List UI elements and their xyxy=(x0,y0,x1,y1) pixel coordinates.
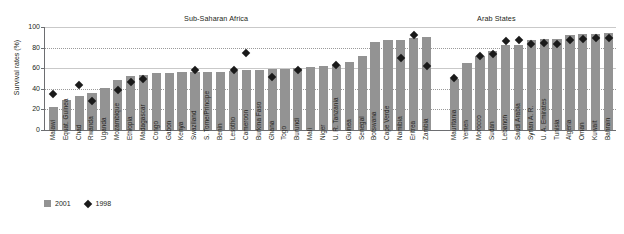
bar-mali xyxy=(306,67,315,130)
x-tick-label-uganda: Uganda xyxy=(100,117,107,140)
group-title-arab-states: Arab States xyxy=(477,14,516,23)
legend-item-1998: 1998 xyxy=(84,200,112,207)
x-tick-label-guinea: Guinea xyxy=(345,119,352,140)
diamond-saudi-arabia xyxy=(514,36,522,44)
x-tick-label-saudi-arabia: Saudi Arabia xyxy=(514,103,521,140)
legend-label-2001: 2001 xyxy=(55,200,71,207)
x-tick-label-namibia: Namibia xyxy=(396,116,403,140)
y-tick-label-40: 40 xyxy=(16,85,40,92)
x-tick-label-togo: Togo xyxy=(280,126,287,140)
x-tick-label-sudan: Sudan xyxy=(488,121,495,140)
x-tick-label-benin: Benin xyxy=(216,123,223,140)
x-tick-label-eritrea: Eritrea xyxy=(409,121,416,140)
diamond-malawi xyxy=(49,90,57,98)
group-title-sub-saharan-africa: Sub-Saharan Africa xyxy=(184,14,248,23)
bar-zambia xyxy=(422,37,431,130)
bar-algeria xyxy=(565,35,574,130)
bar-togo xyxy=(280,69,289,130)
x-tick-label-burundi: Burundi xyxy=(293,118,300,140)
x-tick-label-cape-verde: Cape Verde xyxy=(383,106,390,140)
legend-label-1998: 1998 xyxy=(96,200,112,207)
x-tick-label-ethiopia: Ethiopia xyxy=(126,117,133,141)
x-tick-label-lebanon: Lebanon xyxy=(501,115,508,140)
x-tick-label-tunisia: Tunisia xyxy=(553,119,560,140)
x-tick-label-oman: Oman xyxy=(578,122,585,140)
bar-kuwait xyxy=(591,34,600,130)
y-tick-label-60: 60 xyxy=(16,64,40,71)
x-tick-label-mauritania: Mauritania xyxy=(450,110,457,140)
x-tick-label-morocco: Morocco xyxy=(475,115,482,140)
x-tick-label-rwanda: Rwanda xyxy=(87,116,94,140)
x-tick-label-niger: Niger xyxy=(319,124,326,140)
x-tick-label-mozambique: Mozambique xyxy=(113,103,120,140)
legend: 2001 1998 xyxy=(44,200,111,207)
x-tick-label-cameroon: Cameroon xyxy=(242,110,249,140)
x-tick-label-burkina-faso: Burkina Faso xyxy=(255,102,262,140)
legend-diamond-swatch-icon xyxy=(83,199,91,207)
x-tick-label-syrian-a-r: Syrian A. R. xyxy=(527,106,534,140)
x-tick-label-madagascar: Madagascar xyxy=(139,104,146,140)
legend-bar-swatch-icon xyxy=(44,200,51,207)
x-tick-label-malawi: Malawi xyxy=(49,120,56,140)
bar-oman xyxy=(578,34,587,130)
legend-item-2001: 2001 xyxy=(44,200,71,207)
x-tick-label-equat-guinea: Equat. Guinea xyxy=(62,98,69,140)
x-tick-label-zambia: Zambia xyxy=(422,118,429,140)
y-tick-label-100: 100 xyxy=(16,23,40,30)
x-tick-label-gabon: Gabon xyxy=(165,121,172,140)
x-tick-label-u-a-emirates: U. A. Emirates xyxy=(540,98,547,140)
diamond-cameroon xyxy=(242,48,250,56)
y-tick-label-80: 80 xyxy=(16,44,40,51)
bar-eritrea xyxy=(409,38,418,130)
x-tick-label-mali: Mali xyxy=(306,128,313,140)
y-tick-label-20: 20 xyxy=(16,105,40,112)
x-tick-label-yemen: Yemen xyxy=(462,120,469,140)
x-tick-label-ghana: Ghana xyxy=(268,121,275,140)
bar-bahrain xyxy=(604,33,613,130)
x-tick-label-senegal: Senegal xyxy=(358,116,365,140)
bar-sudan xyxy=(488,51,497,130)
x-tick-label-botswana: Botswana xyxy=(370,112,377,140)
y-tick-label-0: 0 xyxy=(16,126,40,133)
bar-tunisia xyxy=(552,39,561,130)
x-tick-label-lesotho: Lesotho xyxy=(229,117,236,140)
bar-niger xyxy=(319,66,328,130)
x-tick-label-kenya: Kenya xyxy=(177,122,184,140)
x-tick-label-kuwait: Kuwait xyxy=(591,121,598,140)
bar-benin xyxy=(216,72,225,130)
diamond-chad xyxy=(75,80,83,88)
x-tick-label-congo: Congo xyxy=(152,121,159,140)
x-tick-label-s-tome-principe: S. Tome/Principe xyxy=(203,91,210,140)
chart-figure: Sub-Saharan Africa Arab States Survival … xyxy=(0,0,624,234)
x-tick-label-u-r-tanzania: U. R. Tanzania xyxy=(332,98,339,141)
x-tick-label-chad: Chad xyxy=(75,125,82,140)
x-tick-label-bahrain: Bahrain xyxy=(604,118,611,140)
x-tick-label-swaziland: Swaziland xyxy=(190,110,197,140)
x-tick-label-algeria: Algeria xyxy=(565,120,572,140)
